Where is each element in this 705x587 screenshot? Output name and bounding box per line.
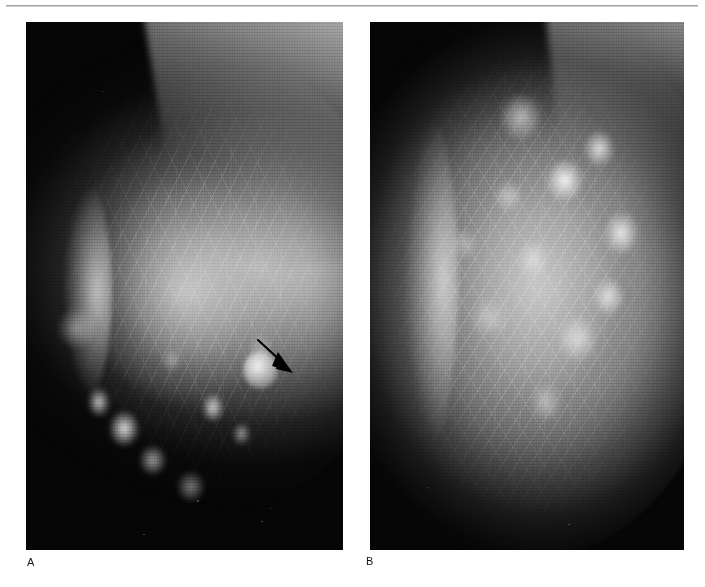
header-rule	[6, 5, 698, 7]
panel-a-mammogram-image	[26, 22, 343, 550]
figure-page: A B	[0, 0, 705, 587]
panel-a-annotation-arrow-icon	[26, 22, 343, 550]
dust-speck	[568, 524, 570, 525]
panel-b-letter-label: B	[366, 556, 374, 567]
running-head-remnant	[330, 0, 378, 4]
panel-a-letter-label: A	[27, 557, 35, 568]
panel-b-film-grain	[370, 22, 684, 550]
panel-b-mammogram-image	[370, 22, 684, 550]
dust-speck	[427, 487, 428, 488]
